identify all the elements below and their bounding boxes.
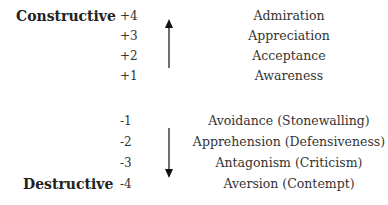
scale-value-minus-2: -2 [120,135,132,149]
constructive-label: Constructive [16,8,116,24]
term-apprehension: Apprehension (Defensiveness) [190,134,388,149]
term-antagonism: Antagonism (Criticism) [190,155,388,170]
term-awareness: Awareness [190,68,388,83]
scale-value-plus-3: +3 [120,29,138,43]
term-aversion: Aversion (Contempt) [190,176,388,191]
term-admiration: Admiration [190,8,388,23]
scale-value-plus-1: +1 [120,69,138,83]
scale-value-minus-1: -1 [120,114,132,128]
scale-value-minus-3: -3 [120,156,132,170]
scale-value-plus-2: +2 [120,49,138,63]
scale-value-plus-4: +4 [120,9,138,23]
scale-value-minus-4: -4 [120,177,132,191]
term-appreciation: Appreciation [190,28,388,43]
term-avoidance: Avoidance (Stonewalling) [190,113,388,128]
term-acceptance: Acceptance [190,48,388,63]
destructive-label: Destructive [23,176,113,192]
arrow-up-icon [163,18,175,70]
arrow-down-icon [163,127,175,180]
